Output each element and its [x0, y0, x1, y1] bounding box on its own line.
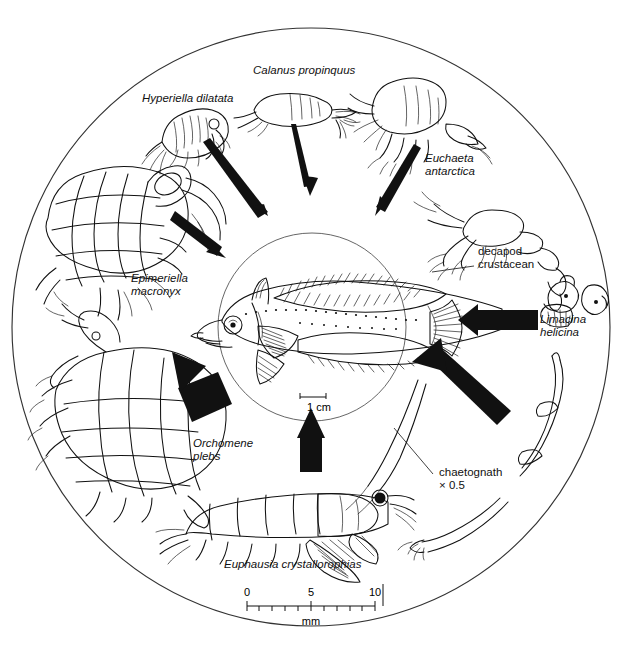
hyperiella-illustration	[142, 109, 230, 174]
arrow-euphausia-to-fish	[297, 408, 325, 472]
arrow-limacina-to-fish	[458, 304, 538, 336]
arrow-orchomene-to-fish	[172, 352, 232, 422]
label-euchaeta-antarctica: Euchaeta antarctica	[425, 152, 521, 178]
label-limacina-helicina: Limacina helicina	[540, 313, 620, 339]
arrow-epimeriella-to-fish	[170, 211, 226, 258]
arrow-euchaeta-to-fish	[375, 144, 421, 216]
diagram-canvas: .org{fill:none;stroke:#111;stroke-width:…	[0, 0, 623, 658]
scale-unit-label: mm	[291, 615, 331, 627]
cm-scale-label: 1 cm	[296, 401, 342, 413]
arrow-calanus-to-fish	[291, 124, 318, 196]
arrow-chaetognath-to-fish	[412, 338, 511, 425]
leader-line-chaetognath	[394, 428, 433, 474]
arrow-hyperiella-to-fish	[203, 138, 268, 218]
inner-boundary-circle	[218, 233, 406, 421]
label-hyperiella-dilatata: Hyperiella dilatata	[142, 92, 272, 105]
scale-tick-5: 5	[303, 586, 319, 598]
label-epimeriella-macronyx: Epimeriella macronyx	[131, 272, 223, 298]
cm-scale-bar	[300, 393, 326, 399]
label-decapod-crustacean: decapod crustacean	[478, 245, 574, 271]
label-orchomene-plebs: Orchomene plebs	[193, 437, 283, 463]
scale-tick-0: 0	[239, 586, 255, 598]
scale-tick-10: 10	[365, 586, 385, 598]
label-chaetognath: chaetognath × 0.5	[439, 466, 539, 492]
label-calanus-propinquus: Calanus propinquus	[253, 64, 398, 77]
chaetognath-illustration	[346, 353, 563, 560]
label-euphausia-crystallorophias: Euphausia crystallorophias	[224, 558, 414, 571]
